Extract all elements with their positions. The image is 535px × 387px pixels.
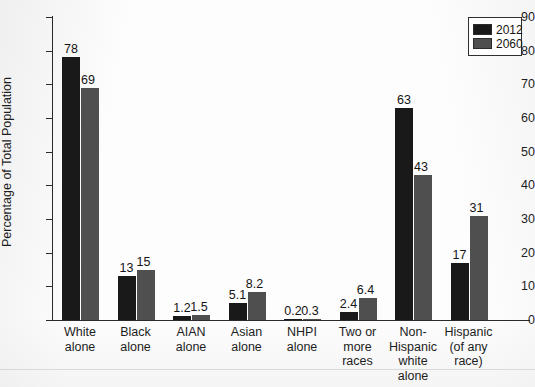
legend-swatch-2060 — [473, 38, 492, 49]
bar-2060-two-or-more-races[interactable] — [359, 298, 377, 320]
footer-divider — [0, 369, 535, 370]
bar-2012-black-alone[interactable] — [118, 276, 136, 320]
bar-2012-white-alone[interactable] — [62, 57, 80, 320]
bar-value-label: 6.4 — [352, 284, 380, 296]
bar-value-label: 69 — [74, 74, 102, 86]
legend-label-2012: 2012 — [496, 24, 523, 36]
bar-2012-aian-alone[interactable] — [173, 316, 191, 320]
legend-swatch-2012 — [473, 24, 492, 35]
category-label-line: Hispanic — [432, 325, 506, 340]
legend-label-2060: 2060 — [496, 38, 523, 50]
category-label-line: (of any — [432, 340, 506, 355]
category-label: Hispanic(of anyrace) — [432, 325, 506, 369]
bar-value-label: 15 — [130, 256, 158, 268]
bar-2060-aian-alone[interactable] — [192, 315, 210, 320]
category-label-line: race) — [432, 354, 506, 369]
legend-item[interactable]: 2012 — [473, 23, 516, 36]
bar-group: 1315 — [118, 17, 155, 320]
bar-group: 5.18.2 — [229, 17, 266, 320]
bar-2012-two-or-more-races[interactable] — [340, 312, 358, 320]
bar-2060-nhpi-alone[interactable] — [303, 319, 321, 321]
bar-value-label: 8.2 — [241, 278, 269, 290]
chart-legend: 2012 2060 — [468, 17, 522, 56]
bar-group: 2.46.4 — [340, 17, 377, 320]
y-axis-label: Percentage of Total Population — [0, 42, 14, 282]
bar-2012-asian-alone[interactable] — [229, 303, 247, 320]
y-axis-label-container: Percentage of Total Population — [0, 0, 18, 340]
bar-2012-nhpi-alone[interactable] — [284, 319, 302, 321]
bar-value-label: 78 — [57, 43, 85, 55]
bar-2060-hispanic-of-any-race-[interactable] — [470, 216, 488, 320]
bar-2060-asian-alone[interactable] — [248, 292, 266, 320]
bar-2060-non-hispanic-white-alone[interactable] — [414, 175, 432, 320]
y-axis-tick-mark — [46, 320, 52, 321]
bar-group: 0.20.3 — [284, 17, 321, 320]
bar-2012-hispanic-of-any-race-[interactable] — [451, 263, 469, 320]
bar-value-label: 63 — [390, 94, 418, 106]
bar-2060-black-alone[interactable] — [137, 270, 155, 321]
bar-value-label: 31 — [463, 202, 491, 214]
bar-group: 1.21.5 — [173, 17, 210, 320]
bar-group: 7869 — [62, 17, 99, 320]
category-label-line: alone — [376, 369, 450, 384]
bar-group: 1731 — [451, 17, 488, 320]
bar-value-label: 0.3 — [296, 305, 324, 317]
x-axis-line — [52, 320, 530, 321]
population-bar-chart-figure: Percentage of Total Population 010203040… — [0, 0, 535, 387]
plot-area: 786913151.21.55.18.20.20.32.46.463431731 — [52, 17, 530, 320]
bar-group: 6343 — [395, 17, 432, 320]
legend-item[interactable]: 2060 — [473, 37, 516, 50]
bar-2012-non-hispanic-white-alone[interactable] — [395, 108, 413, 320]
bar-2060-white-alone[interactable] — [81, 88, 99, 320]
bar-value-label: 1.5 — [185, 301, 213, 313]
bar-value-label: 43 — [407, 161, 435, 173]
